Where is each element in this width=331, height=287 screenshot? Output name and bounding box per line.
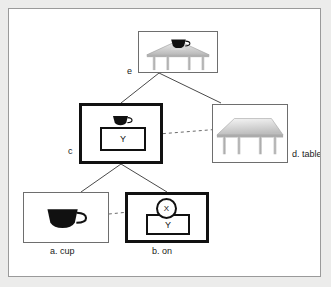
node-a[interactable] [23,192,109,243]
node-e[interactable] [138,31,218,73]
edge-e-d [159,73,221,103]
cup-icon [108,115,134,129]
edge-c-a [81,164,121,192]
figure-root: e Y c [0,0,331,287]
node-b-label: b. on [152,246,172,257]
node-c[interactable]: Y [79,103,163,164]
node-b-circle: X [156,198,177,219]
table-icon [213,105,287,162]
node-d-label: d. table [292,149,321,160]
table-with-cup-icon [139,32,217,72]
node-b-inner-label: Y [165,220,171,230]
figure-frame: e Y c [8,8,321,277]
node-c-inner-box: Y [100,127,146,151]
node-e-label: e [127,66,132,77]
diagram-canvas: e Y c [9,9,320,276]
node-a-label: a. cup [50,246,75,257]
cup-photo-icon [24,193,108,242]
node-d[interactable] [212,104,288,163]
node-b-circle-label: X [164,204,169,213]
edge-e-c [121,73,159,103]
edge-c-b [121,164,167,192]
node-b[interactable]: X Y [125,192,209,243]
node-c-inner-label: Y [120,134,126,144]
node-c-label: c [68,146,73,157]
